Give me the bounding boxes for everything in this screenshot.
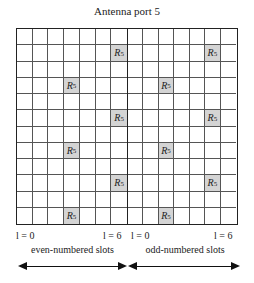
resource-element bbox=[128, 175, 143, 191]
resource-element bbox=[48, 78, 64, 94]
resource-element bbox=[143, 143, 158, 159]
resource-element bbox=[48, 45, 64, 61]
resource-element bbox=[33, 175, 49, 191]
reference-signal-cell: R5 bbox=[159, 208, 174, 224]
resource-element bbox=[221, 208, 236, 224]
resource-element bbox=[80, 29, 96, 45]
resource-element bbox=[174, 94, 189, 110]
odd-l6-label: l = 6 bbox=[214, 230, 232, 241]
resource-element bbox=[80, 175, 96, 191]
reference-signal-cell: R5 bbox=[159, 78, 174, 94]
resource-element bbox=[174, 159, 189, 175]
resource-element bbox=[221, 192, 236, 208]
even-l6-label: l = 6 bbox=[103, 230, 121, 241]
resource-element bbox=[143, 192, 158, 208]
resource-element bbox=[33, 62, 49, 78]
resource-element bbox=[33, 127, 49, 143]
resource-element bbox=[64, 127, 80, 143]
resource-element bbox=[80, 62, 96, 78]
arrow-head-right-icon bbox=[118, 262, 127, 270]
reference-signal-cell: R5 bbox=[64, 143, 80, 159]
resource-element bbox=[64, 110, 80, 126]
resource-element bbox=[190, 159, 205, 175]
resource-element bbox=[96, 110, 112, 126]
resource-element bbox=[17, 143, 33, 159]
resource-element bbox=[17, 175, 33, 191]
reference-signal-cell: R5 bbox=[159, 143, 174, 159]
resource-element bbox=[96, 78, 112, 94]
resource-element bbox=[205, 29, 220, 45]
odd-slots-label: odd-numbered slots bbox=[130, 244, 240, 255]
resource-element bbox=[174, 110, 189, 126]
resource-element bbox=[17, 208, 33, 224]
resource-element bbox=[111, 143, 127, 159]
even-slots-label: even-numbered slots bbox=[20, 244, 125, 255]
resource-element bbox=[221, 62, 236, 78]
resource-element bbox=[33, 29, 49, 45]
reference-signal-cell: R5 bbox=[64, 78, 80, 94]
resource-element bbox=[205, 78, 220, 94]
resource-element bbox=[174, 45, 189, 61]
resource-element bbox=[143, 159, 158, 175]
odd-l0-label: l = 0 bbox=[131, 230, 149, 241]
resource-element bbox=[64, 94, 80, 110]
resource-element bbox=[80, 78, 96, 94]
resource-element bbox=[205, 62, 220, 78]
resource-element bbox=[96, 45, 112, 61]
resource-element bbox=[159, 45, 174, 61]
even-l0-label: l = 0 bbox=[16, 230, 34, 241]
resource-element bbox=[190, 208, 205, 224]
resource-element bbox=[128, 110, 143, 126]
resource-element bbox=[111, 127, 127, 143]
resource-element bbox=[221, 159, 236, 175]
resource-element bbox=[96, 208, 112, 224]
resource-element bbox=[190, 62, 205, 78]
resource-element bbox=[111, 94, 127, 110]
resource-element bbox=[17, 78, 33, 94]
resource-element bbox=[111, 78, 127, 94]
resource-element bbox=[64, 159, 80, 175]
resource-element bbox=[143, 175, 158, 191]
resource-element bbox=[33, 143, 49, 159]
resource-element bbox=[190, 127, 205, 143]
arrow-head-right-icon bbox=[231, 262, 240, 270]
resource-element bbox=[205, 94, 220, 110]
resource-element bbox=[48, 94, 64, 110]
resource-element bbox=[80, 159, 96, 175]
resource-element bbox=[111, 208, 127, 224]
resource-element bbox=[174, 143, 189, 159]
resource-element bbox=[143, 45, 158, 61]
resource-element bbox=[190, 29, 205, 45]
resource-element bbox=[33, 208, 49, 224]
resource-element bbox=[128, 45, 143, 61]
resource-element bbox=[159, 94, 174, 110]
resource-element bbox=[64, 29, 80, 45]
resource-element bbox=[17, 45, 33, 61]
resource-element bbox=[128, 159, 143, 175]
resource-element bbox=[159, 159, 174, 175]
resource-element bbox=[143, 62, 158, 78]
resource-element bbox=[128, 62, 143, 78]
resource-element bbox=[80, 127, 96, 143]
resource-element bbox=[17, 94, 33, 110]
resource-element bbox=[64, 45, 80, 61]
resource-element bbox=[33, 159, 49, 175]
resource-element bbox=[111, 192, 127, 208]
resource-element bbox=[159, 127, 174, 143]
reference-signal-cell: R5 bbox=[205, 45, 220, 61]
resource-element bbox=[33, 45, 49, 61]
resource-element bbox=[48, 62, 64, 78]
resource-element bbox=[33, 78, 49, 94]
resource-element bbox=[80, 110, 96, 126]
resource-element bbox=[64, 62, 80, 78]
resource-element bbox=[159, 175, 174, 191]
resource-element bbox=[96, 192, 112, 208]
resource-element bbox=[111, 29, 127, 45]
resource-element bbox=[205, 208, 220, 224]
resource-element bbox=[128, 127, 143, 143]
resource-element bbox=[17, 159, 33, 175]
resource-element bbox=[96, 62, 112, 78]
resource-element bbox=[190, 78, 205, 94]
resource-element bbox=[17, 29, 33, 45]
resource-element bbox=[205, 159, 220, 175]
